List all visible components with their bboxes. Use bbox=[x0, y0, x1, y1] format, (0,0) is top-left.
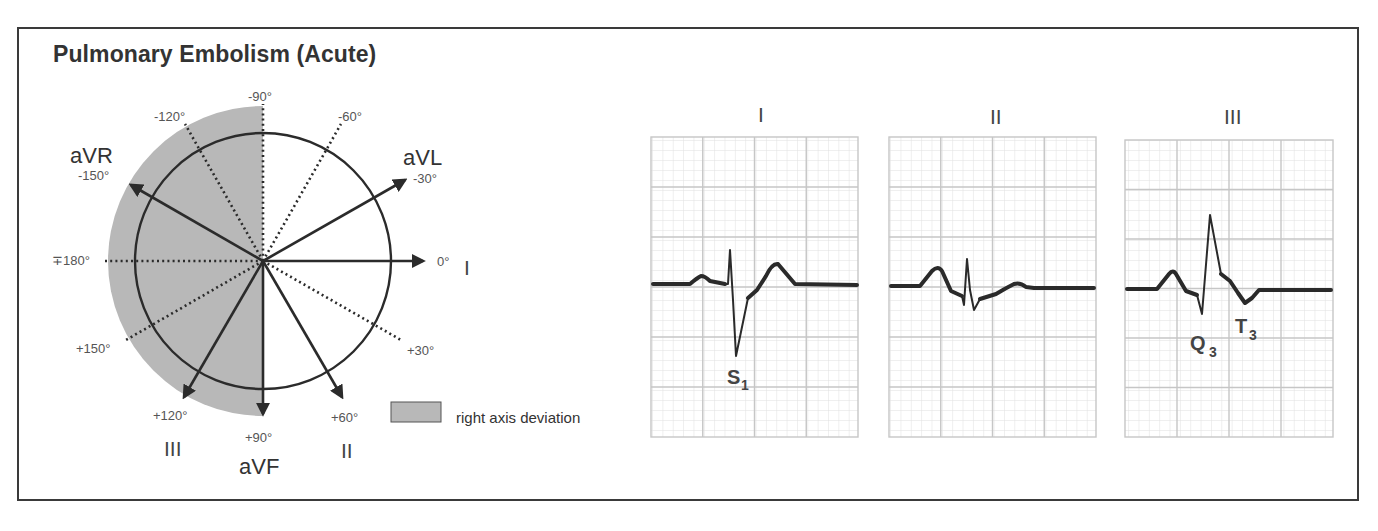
dotted-line-p30 bbox=[263, 261, 401, 340]
annotation-T3: T bbox=[1235, 315, 1247, 337]
arrow-II bbox=[263, 261, 342, 397]
angle-label-p60: +60° bbox=[331, 410, 358, 425]
angle-label-p150: +150° bbox=[76, 341, 110, 356]
annotation-S1-subscript: 1 bbox=[741, 377, 749, 393]
legend-swatch bbox=[391, 402, 441, 422]
annotation-Q3-subscript: 3 bbox=[1209, 344, 1217, 360]
angle-label-180: ∓180° bbox=[52, 253, 90, 268]
angle-label-p30: +30° bbox=[407, 343, 434, 358]
angle-label-m120: -120° bbox=[154, 109, 185, 124]
lead-label-III: III bbox=[164, 437, 182, 460]
ecg-strip-I: I S 1 bbox=[651, 103, 858, 437]
lead-label-II: II bbox=[341, 439, 353, 462]
strip-title-I: I bbox=[758, 103, 764, 126]
ecg-strip-III: III Q 3 T 3 bbox=[1125, 105, 1333, 437]
ecg-strip-II: II bbox=[889, 105, 1096, 437]
angle-label-m90: -90° bbox=[248, 89, 272, 104]
lead-label-I: I bbox=[464, 256, 470, 279]
legend-label: right axis deviation bbox=[456, 409, 580, 426]
annotation-T3-subscript: 3 bbox=[1249, 327, 1257, 343]
lead-label-aVF: aVF bbox=[239, 454, 279, 479]
annotation-Q3: Q bbox=[1190, 332, 1206, 354]
angle-label-p120: +120° bbox=[153, 408, 187, 423]
annotation-S1: S bbox=[727, 366, 740, 388]
figure-canvas: -90° -120° -60° -150° -30° ∓180° 0° +150… bbox=[0, 0, 1378, 531]
angle-label-p90: +90° bbox=[245, 430, 272, 445]
legend: right axis deviation bbox=[391, 402, 580, 426]
strip-title-II: II bbox=[990, 105, 1002, 128]
angle-label-m60: -60° bbox=[338, 109, 362, 124]
dotted-line-m60 bbox=[263, 124, 341, 261]
strip-title-III: III bbox=[1224, 105, 1242, 128]
angle-label-0: 0° bbox=[437, 254, 449, 269]
lead-label-aVR: aVR bbox=[70, 143, 113, 168]
angle-label-m30: -30° bbox=[413, 171, 437, 186]
angle-label-m150: -150° bbox=[78, 168, 109, 183]
lead-label-aVL: aVL bbox=[403, 145, 442, 170]
